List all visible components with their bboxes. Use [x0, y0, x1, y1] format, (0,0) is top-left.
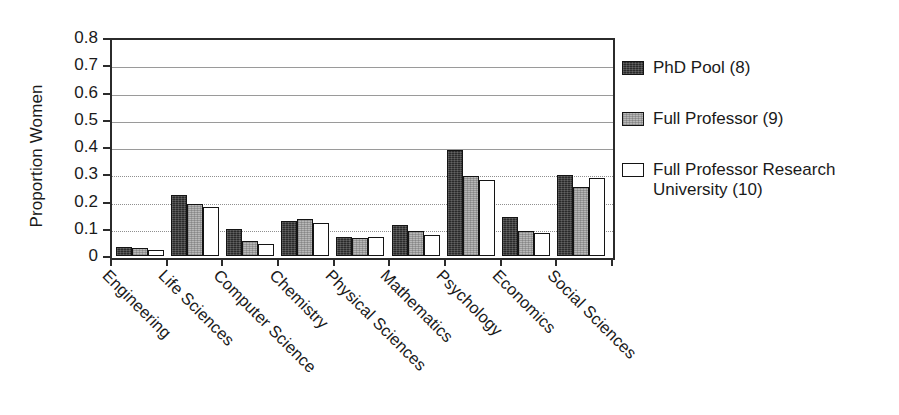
bar	[242, 241, 258, 256]
y-tick-mark	[103, 202, 110, 204]
bar	[534, 233, 550, 256]
x-axis-label: Computer Science	[210, 266, 321, 377]
y-tick-mark	[103, 256, 110, 258]
bar-group	[499, 38, 554, 256]
bar	[573, 187, 589, 256]
bar-group	[278, 38, 333, 256]
bar	[447, 150, 463, 256]
gray-filled-swatch	[622, 112, 644, 126]
legend-item[interactable]: Full Professor (9)	[622, 109, 892, 129]
bar	[392, 225, 408, 256]
y-tick-label: 0.3	[48, 164, 98, 184]
x-axis-labels: EngineeringLife SciencesComputer Science…	[110, 266, 670, 406]
y-tick-label: 0.7	[48, 55, 98, 75]
dark-filled-swatch	[622, 61, 644, 75]
legend-item[interactable]: PhD Pool (8)	[622, 58, 892, 78]
white-outline-swatch	[622, 163, 644, 177]
bar	[187, 204, 203, 256]
y-tick-mark	[103, 147, 110, 149]
bar	[479, 180, 495, 256]
legend-label: PhD Pool (8)	[653, 58, 750, 78]
bar	[297, 219, 313, 256]
bar	[313, 223, 329, 256]
y-tick-mark	[103, 65, 110, 67]
y-tick-mark	[103, 229, 110, 231]
bar-group	[554, 38, 609, 256]
bar	[408, 231, 424, 256]
bar	[148, 250, 164, 256]
x-axis-label: Social Sciences	[544, 266, 641, 363]
bar	[203, 207, 219, 256]
y-tick-mark	[103, 174, 110, 176]
bar	[502, 217, 518, 257]
bar	[589, 178, 605, 256]
y-axis-title: Proportion Women	[27, 46, 47, 266]
bar	[463, 176, 479, 256]
bar	[226, 229, 242, 256]
bar-group	[112, 38, 167, 256]
bar-groups	[112, 38, 609, 256]
y-tick-mark	[103, 120, 110, 122]
y-tick-mark	[103, 93, 110, 95]
bar	[518, 231, 534, 256]
bar	[171, 195, 187, 256]
y-tick-label: 0.4	[48, 137, 98, 157]
legend-item[interactable]: Full Professor Research University (10)	[622, 160, 892, 200]
chart-legend: PhD Pool (8)Full Professor (9)Full Profe…	[622, 58, 892, 231]
x-axis-label: Physical Sciences	[321, 266, 430, 375]
bar-group	[167, 38, 222, 256]
bar	[336, 237, 352, 256]
bar	[352, 238, 368, 256]
bar	[368, 237, 384, 256]
bar-group	[443, 38, 498, 256]
bar	[116, 247, 132, 256]
y-tick-label: 0.5	[48, 110, 98, 130]
bar-group	[388, 38, 443, 256]
y-tick-label: 0.1	[48, 219, 98, 239]
bar-group	[222, 38, 277, 256]
y-tick-label: 0	[48, 246, 98, 266]
y-tick-label: 0.8	[48, 28, 98, 48]
y-tick-mark	[103, 38, 110, 40]
bar	[258, 244, 274, 256]
legend-label: Full Professor Research University (10)	[653, 160, 835, 200]
y-tick-label: 0.2	[48, 192, 98, 212]
bar	[424, 235, 440, 256]
x-tick-mark	[611, 258, 613, 266]
bar-chart-figure: Proportion Women 0.80.70.60.50.40.30.20.…	[0, 0, 899, 415]
x-axis-ticks	[110, 258, 611, 266]
bar	[557, 175, 573, 256]
bar	[132, 248, 148, 256]
y-tick-label: 0.6	[48, 83, 98, 103]
bar	[281, 221, 297, 256]
bar-group	[333, 38, 388, 256]
legend-label: Full Professor (9)	[653, 109, 783, 129]
